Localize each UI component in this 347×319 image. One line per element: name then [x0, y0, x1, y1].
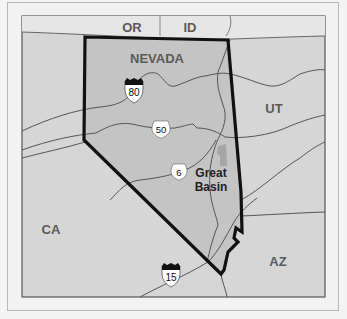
label-great-basin-line2: Basin — [195, 180, 228, 194]
label-ut: UT — [265, 101, 282, 116]
label-nevada: NEVADA — [130, 51, 185, 66]
label-az: AZ — [269, 254, 286, 269]
svg-text:80: 80 — [128, 87, 140, 98]
label-ca: CA — [42, 222, 61, 237]
svg-text:6: 6 — [176, 167, 181, 178]
interstate-shield-cap — [125, 78, 143, 85]
svg-text:50: 50 — [156, 124, 167, 135]
label-great-basin-line1: Great — [195, 166, 226, 180]
label-or: OR — [122, 20, 142, 35]
interstate-shield-cap — [162, 263, 180, 270]
nevada-map: OR ID NEVADA UT CA AZ Great Basin 80 50 … — [0, 0, 347, 319]
label-id: ID — [184, 20, 197, 35]
svg-text:15: 15 — [165, 272, 177, 283]
